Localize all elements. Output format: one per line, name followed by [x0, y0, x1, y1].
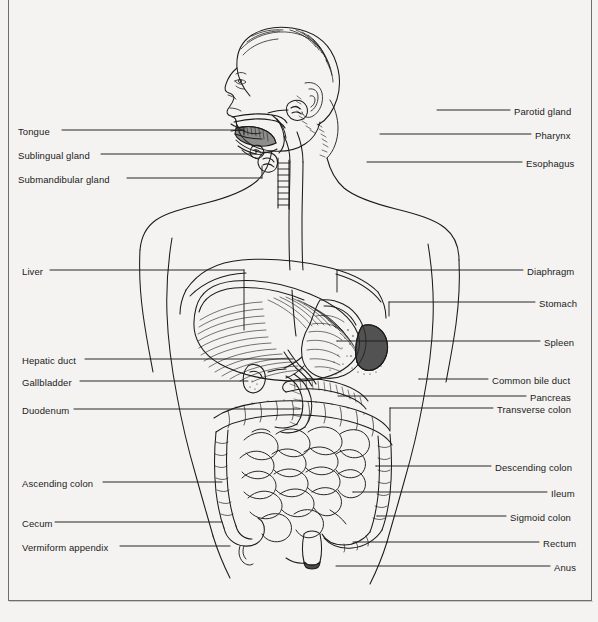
biliary-system	[243, 350, 316, 393]
liver-hatching	[198, 302, 302, 382]
label-hepatic-duct: Hepatic duct	[22, 355, 76, 366]
label-spleen: Spleen	[544, 337, 574, 348]
hair	[241, 30, 333, 82]
liver	[194, 281, 360, 382]
label-esophagus: Esophagus	[526, 158, 574, 169]
anatomy-illustration	[0, 0, 598, 622]
label-duodenum: Duodenum	[22, 405, 69, 416]
label-pharynx: Pharynx	[535, 130, 571, 141]
label-submandibular-gland: Submandibular gland	[18, 174, 110, 185]
label-ileum: Ileum	[551, 488, 575, 499]
label-liver: Liver	[22, 266, 43, 277]
oral-cavity	[231, 114, 287, 155]
label-sigmoid-colon: Sigmoid colon	[510, 512, 571, 523]
label-rectum: Rectum	[543, 538, 576, 549]
label-ascending-colon: Ascending colon	[22, 478, 93, 489]
vermiform-appendix	[239, 546, 253, 565]
ascending-colon	[215, 430, 237, 528]
torso-outline	[140, 151, 460, 584]
trachea	[278, 158, 289, 209]
pharynx-esophagus	[284, 132, 303, 270]
label-diaphragm: Diaphragm	[527, 266, 574, 277]
label-transverse-colon: Transverse colon	[497, 404, 571, 415]
label-gallbladder: Gallbladder	[22, 377, 72, 388]
spleen	[356, 325, 388, 371]
label-parotid-gland: Parotid gland	[514, 106, 571, 117]
diaphragm	[180, 259, 386, 318]
cecum	[224, 518, 264, 546]
label-tongue: Tongue	[18, 126, 50, 137]
beard-texture	[296, 96, 328, 157]
rectum	[303, 531, 322, 562]
leader-lines	[50, 110, 550, 566]
label-anus: Anus	[554, 562, 576, 573]
label-cecum: Cecum	[22, 518, 53, 529]
label-stomach: Stomach	[539, 298, 577, 309]
label-vermiform-appendix: Vermiform appendix	[22, 542, 108, 553]
submandibular-gland	[242, 150, 278, 172]
stomach	[284, 300, 366, 379]
label-common-bile-duct: Common bile duct	[492, 375, 570, 386]
label-sublingual-gland: Sublingual gland	[18, 150, 90, 161]
diagram-page: TongueSublingual glandSubmandibular glan…	[0, 0, 598, 622]
gallbladder	[243, 365, 265, 393]
label-pancreas: Pancreas	[530, 392, 571, 403]
neck-back	[327, 100, 338, 158]
small-intestine-ileum	[240, 427, 369, 542]
label-descending-colon: Descending colon	[495, 462, 572, 473]
ear	[302, 82, 323, 117]
sigmoid-colon	[322, 530, 382, 552]
descending-colon	[370, 434, 392, 532]
